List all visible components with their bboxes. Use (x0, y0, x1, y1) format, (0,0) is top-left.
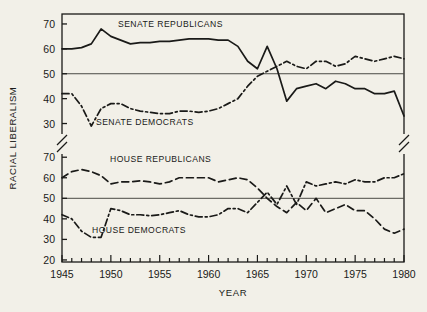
senate-ytick-label-30: 30 (43, 118, 55, 130)
xtick-label-1945: 1945 (50, 268, 74, 280)
chart-background (0, 0, 427, 312)
xtick-label-1965: 1965 (246, 268, 270, 280)
label-house-republicans: HOUSE REPUBLICANS (110, 154, 211, 164)
xtick-label-1980: 1980 (392, 268, 416, 280)
xtick-label-1950: 1950 (99, 268, 123, 280)
senate-ytick-label-40: 40 (43, 93, 55, 105)
xtick-label-1955: 1955 (148, 268, 172, 280)
house-ytick-label-60: 60 (43, 172, 55, 184)
senate-ytick-label-60: 60 (43, 43, 55, 55)
senate-ytick-label-70: 70 (43, 18, 55, 30)
house-ytick-label-30: 30 (43, 233, 55, 245)
label-house-democrats: HOUSE DEMOCRATS (92, 225, 186, 235)
x-axis-title: YEAR (219, 287, 247, 298)
label-senate-republicans: SENATE REPUBLICANS (118, 19, 223, 29)
racial-liberalism-chart: 3040506070203040506070194519501955196019… (0, 0, 427, 312)
house-ytick-label-70: 70 (43, 151, 55, 163)
y-axis-title: RACIAL LIBERALISM (7, 87, 18, 190)
label-senate-democrats: SENATE DEMOCRATS (96, 117, 194, 127)
xtick-label-1960: 1960 (197, 268, 221, 280)
house-ytick-label-50: 50 (43, 192, 55, 204)
xtick-label-1975: 1975 (343, 268, 367, 280)
house-ytick-label-40: 40 (43, 213, 55, 225)
senate-ytick-label-50: 50 (43, 68, 55, 80)
xtick-label-1970: 1970 (295, 268, 319, 280)
house-ytick-label-20: 20 (43, 254, 55, 266)
